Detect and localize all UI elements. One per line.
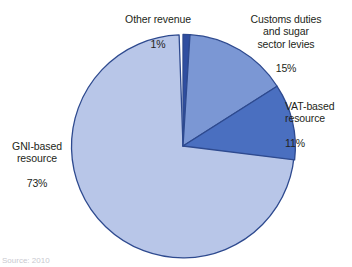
pie-label-gni-based-resource-name: GNI-based resource — [2, 140, 72, 164]
pie-label-customs-duties-name: Customs duties and sugar sector levies — [223, 13, 349, 50]
pie-label-vat-based-resource-name: VAT-based resource — [285, 100, 351, 124]
pie-label-customs-duties-value: 15% — [223, 62, 349, 74]
pie-label-other-revenue-name: Other revenue — [96, 13, 220, 25]
pie-chart-figure: Other revenue 1% Customs duties and suga… — [0, 0, 352, 267]
pie-label-gni-based-resource: GNI-based resource 73% — [2, 128, 72, 201]
pie-label-customs-duties: Customs duties and sugar sector levies 1… — [223, 1, 349, 86]
pie-label-other-revenue-value: 1% — [96, 38, 220, 50]
pie-label-vat-based-resource-value: 11% — [285, 137, 351, 149]
pie-label-other-revenue: Other revenue 1% — [96, 1, 220, 62]
pie-label-vat-based-resource: VAT-based resource 11% — [285, 88, 351, 161]
source-note: Source: 2010 — [2, 256, 122, 266]
pie-label-gni-based-resource-value: 73% — [2, 177, 72, 189]
